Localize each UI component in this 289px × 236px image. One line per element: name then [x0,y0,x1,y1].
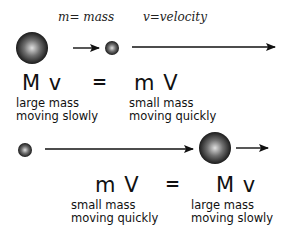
momentum-small-fast: m V [95,173,140,197]
caption-small-mass-fast: small mass moving quickly [71,199,158,225]
legend-mass: m= mass [58,10,114,24]
small-ball-icon [105,41,119,55]
large-ball-icon [199,132,231,164]
caption-large-mass-slow: large mass moving slowly [191,199,273,225]
equals-sign: = [165,173,180,194]
equals-sign: = [92,71,107,92]
momentum-large-slow: M v [216,173,256,197]
small-ball-icon [18,143,32,157]
caption-large-mass-slow: large mass moving slowly [16,97,98,123]
legend-velocity: v=velocity [143,10,207,24]
momentum-large-slow: M v [22,71,62,95]
momentum-small-fast: m V [134,71,179,95]
large-ball-icon [16,32,48,64]
caption-small-mass-fast: small mass moving quickly [129,97,216,123]
